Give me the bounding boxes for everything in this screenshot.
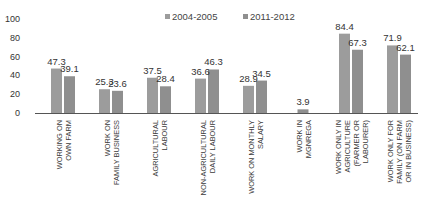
- category-label: AGRICULTURAL: [151, 120, 160, 177]
- bar-2004-2005-3: [195, 79, 206, 113]
- legend-label: 2011-2012: [250, 11, 295, 22]
- category-label: FAMILY BUSINESS: [112, 120, 121, 185]
- data-label: 39.1: [60, 63, 79, 74]
- bar-2011-2012-0: [64, 76, 75, 113]
- y-tick-label: 0: [15, 108, 20, 118]
- category-label: WORK ONLY FOR: [386, 120, 395, 182]
- bar-2011-2012-6: [352, 50, 363, 113]
- legend-label: 2004-2005: [172, 11, 217, 22]
- bar-chart: 020406080100 47.339.125.323.637.528.436.…: [0, 0, 437, 197]
- y-tick-label: 60: [10, 52, 20, 62]
- category-label: LABOURER): [361, 120, 370, 163]
- bar-2011-2012-1: [112, 91, 123, 113]
- data-label: 67.3: [348, 37, 367, 48]
- category-label: WORK ON MONTHLY: [247, 120, 256, 194]
- category-label: MGNREGA: [304, 120, 313, 158]
- bar-2011-2012-4: [256, 81, 267, 113]
- category-labels-group: WORKING ONOWN FARMWORK ONFAMILY BUSINESS…: [55, 120, 414, 195]
- bar-2004-2005-0: [51, 69, 62, 113]
- data-label: 34.5: [252, 68, 271, 79]
- y-tick-label: 100: [5, 14, 20, 24]
- category-label: (FARMER OR: [352, 120, 361, 166]
- data-label: 23.6: [108, 78, 127, 89]
- category-label: FAMILY (ON FARM: [395, 120, 404, 184]
- category-label: SALARY: [256, 120, 265, 149]
- category-label: OWN FARM: [64, 120, 73, 161]
- category-label: DAILY LABOUR: [208, 120, 217, 173]
- y-tick-label: 40: [10, 70, 20, 80]
- bar-2011-2012-2: [160, 86, 171, 113]
- bar-2011-2012-5: [298, 109, 309, 113]
- bar-2011-2012-7: [400, 55, 411, 113]
- y-tick-label: 80: [10, 33, 20, 43]
- bar-2004-2005-1: [99, 89, 110, 113]
- category-label: WORK ON: [103, 120, 112, 156]
- legend: 2004-20052011-2012: [165, 11, 295, 22]
- y-tick-label: 20: [10, 89, 20, 99]
- data-label: 62.1: [396, 42, 415, 53]
- category-label: LABOUR: [160, 120, 169, 150]
- bar-2004-2005-4: [243, 86, 254, 113]
- category-label: AGRICULTURE: [343, 120, 352, 172]
- category-label: WORK ONLY IN: [334, 120, 343, 174]
- legend-swatch: [165, 14, 170, 19]
- category-label: WORK IN: [295, 120, 304, 152]
- legend-swatch: [243, 14, 248, 19]
- category-label: WORKING ON: [55, 120, 64, 169]
- data-label: 84.4: [335, 21, 354, 32]
- category-label: NON-AGRICULTURAL: [199, 120, 208, 195]
- data-label: 46.3: [204, 56, 223, 67]
- y-axis: 020406080100: [5, 14, 20, 118]
- category-label: OR IN BUSINESS): [404, 120, 413, 182]
- bar-2004-2005-7: [387, 45, 398, 113]
- data-label: 28.4: [156, 73, 175, 84]
- data-label: 3.9: [296, 96, 309, 107]
